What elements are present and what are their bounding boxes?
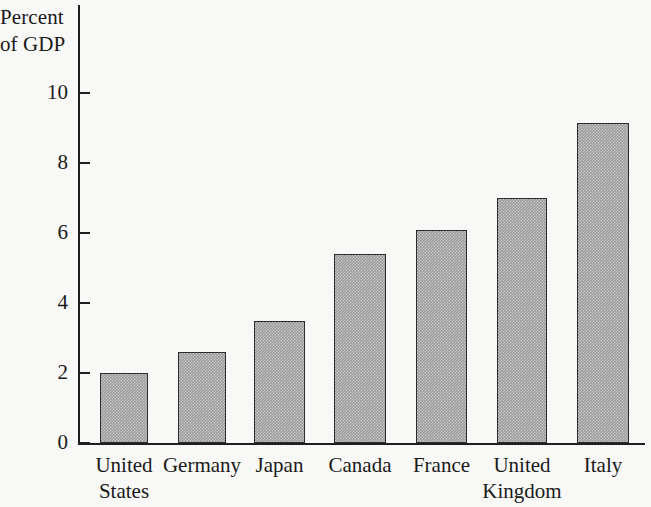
x-axis-category-label-line: States [54,478,194,504]
bar [577,123,629,443]
bar [178,352,226,443]
bars-layer [0,0,651,507]
x-axis-category-label-line: Italy [533,452,651,478]
x-axis-category-label-line: Kingdom [452,478,592,504]
bar [497,198,547,443]
x-axis-category-label: Italy [533,452,651,478]
bar [334,254,386,443]
bar-chart: Percent of GDP 0246810 UnitedStatesGerma… [0,0,651,507]
bar [254,321,305,444]
bar [416,230,467,444]
bar [100,373,148,443]
